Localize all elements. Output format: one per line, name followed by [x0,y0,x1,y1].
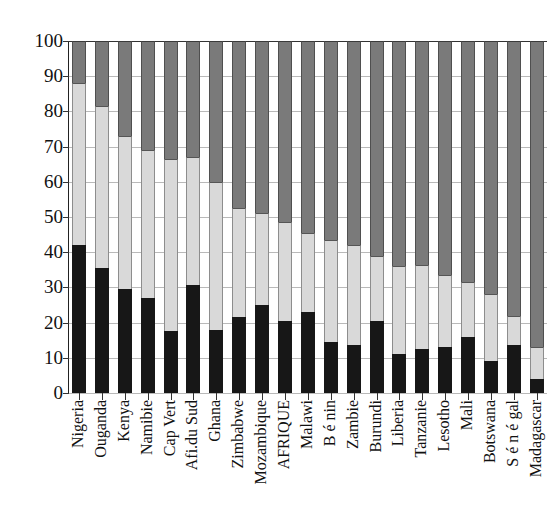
x-axis-label: Lesotho [437,400,451,524]
bar-segment-series-2 [484,294,498,361]
x-axis-label-text: Kenya [116,400,132,442]
bar-column[interactable] [164,41,178,393]
bar-segment-series-3 [95,41,109,106]
x-axis-label-text: S é n é gal [505,400,521,467]
bar-segment-series-3 [255,41,269,213]
bar-column[interactable] [72,41,86,393]
bar-column[interactable] [507,41,521,393]
x-axis-label: Mozambique [254,400,268,524]
bar-segment-series-1 [232,317,246,393]
x-axis-label: Nigeria [71,400,85,524]
bar-segment-series-3 [438,41,452,275]
bar-column[interactable] [255,41,269,393]
x-axis-label: Ouganda [94,400,108,524]
x-axis-label-text: Afi.du Sud [184,400,200,470]
bar-segment-series-1 [301,312,315,393]
bar-column[interactable] [95,41,109,393]
bar-segment-series-2 [507,316,521,346]
x-tick [530,393,544,400]
bar-segment-series-2 [324,240,338,342]
bar-column[interactable] [118,41,132,393]
x-tick [415,393,429,400]
bar-column[interactable] [461,41,475,393]
bar-column[interactable] [209,41,223,393]
y-axis-label-60: 60 [44,172,63,191]
bar-column[interactable] [415,41,429,393]
x-axis-label-text: Nigeria [70,400,86,448]
bar-column[interactable] [392,41,406,393]
bar-column[interactable] [324,41,338,393]
x-tick [255,393,269,400]
bar-group [69,41,547,393]
x-axis-label-text: Ghana [207,400,223,442]
bar-column[interactable] [484,41,498,393]
bar-segment-series-2 [95,106,109,268]
x-tick [370,393,384,400]
bar-segment-series-3 [301,41,315,233]
bar-column[interactable] [186,41,200,393]
x-axis-label: Cap Vert [163,400,177,524]
x-axis-label: Mali [460,400,474,524]
x-tick [438,393,452,400]
bar-segment-series-1 [507,345,521,393]
x-axis-label: Afi.du Sud [185,400,199,524]
bar-column[interactable] [347,41,361,393]
bar-segment-series-2 [118,136,132,289]
x-axis-label-text: Namibie [139,400,155,455]
x-tick [278,393,292,400]
x-axis-label: Botswana [483,400,497,524]
x-axis-label-text: Madagascar [528,400,544,477]
x-tick [209,393,223,400]
bar-segment-series-2 [278,222,292,321]
bar-segment-series-3 [415,41,429,265]
bar-segment-series-2 [255,213,269,305]
x-axis-label-text: Zambie [345,400,361,449]
bar-segment-series-2 [164,159,178,331]
x-tick [324,393,338,400]
x-axis-label-text: Mozambique [253,400,269,484]
bar-column[interactable] [530,41,544,393]
x-axis-label: Zimbabwe [231,400,245,524]
bar-segment-series-3 [530,41,544,347]
stacked-bar-chart: 0102030405060708090100 NigeriaOugandaKen… [0,0,560,527]
y-axis-label-40: 40 [44,242,63,261]
x-tick [392,393,406,400]
bar-segment-series-3 [72,41,86,83]
bar-segment-series-2 [392,266,406,354]
x-axis-label: Madagascar [529,400,543,524]
y-axis-label-50: 50 [44,207,63,226]
bar-column[interactable] [278,41,292,393]
bar-column[interactable] [232,41,246,393]
bar-segment-series-1 [530,379,544,393]
y-axis-label-30: 30 [44,277,63,296]
bar-segment-series-1 [484,361,498,393]
x-axis-label-text: Tanzanie [413,400,429,458]
y-axis-label-0: 0 [54,383,64,402]
bar-segment-series-3 [232,41,246,208]
x-tick [72,393,86,400]
bar-segment-series-1 [186,285,200,393]
bar-column[interactable] [438,41,452,393]
y-axis-label-100: 100 [35,31,64,50]
y-axis-label-80: 80 [44,101,63,120]
bar-segment-series-2 [347,245,361,345]
bar-segment-series-1 [164,331,178,393]
bar-column[interactable] [141,41,155,393]
x-tick [347,393,361,400]
bar-segment-series-1 [461,337,475,393]
bar-segment-series-1 [347,345,361,393]
bar-column[interactable] [301,41,315,393]
bar-segment-series-3 [278,41,292,222]
bar-segment-series-1 [255,305,269,393]
bar-segment-series-1 [438,347,452,393]
x-axis-label: Zambie [346,400,360,524]
bar-segment-series-3 [484,41,498,294]
bar-column[interactable] [370,41,384,393]
bar-segment-series-1 [324,342,338,393]
bar-segment-series-3 [209,41,223,182]
x-axis-label: Malawi [300,400,314,524]
bar-segment-series-2 [370,256,384,321]
bar-segment-series-3 [392,41,406,266]
bar-segment-series-2 [530,347,544,379]
x-axis-label: AFRIQUE [277,400,291,524]
